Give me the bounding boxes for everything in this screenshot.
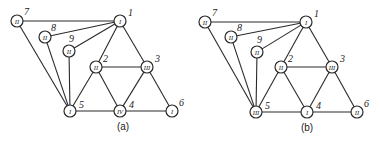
node-color-label: II [228, 34, 234, 41]
panel-a: I1II2III3IV4I5I6II7II8II9(a) [11, 6, 184, 132]
graph-coloring-diagram: I1II2III3IV4I5I6II7II8II9(a) I1II2III3I4… [0, 0, 381, 146]
node-8: II8 [225, 22, 242, 43]
node-color-label: II [202, 19, 208, 26]
panel-caption: (b) [301, 122, 313, 133]
node-number-label: 5 [79, 99, 84, 110]
edge-3-6 [150, 72, 169, 106]
node-color-label: II [14, 18, 20, 25]
edge-9-5 [256, 58, 257, 106]
node-1: I1 [300, 8, 319, 28]
node-number-label: 9 [257, 34, 262, 45]
node-color-label: III [328, 64, 336, 71]
node-number-label: 1 [314, 8, 319, 19]
edge-1-3 [123, 26, 144, 62]
node-4: I4 [301, 100, 321, 118]
node-number-label: 7 [212, 7, 218, 18]
node-9: II9 [63, 33, 75, 57]
node-3: III3 [141, 53, 160, 73]
node-number-label: 1 [128, 7, 133, 18]
node-number-label: 8 [237, 22, 242, 33]
panel-caption: (a) [117, 121, 129, 132]
node-1: I1 [114, 7, 133, 27]
node-7: II7 [199, 7, 218, 28]
node-number-label: 4 [129, 99, 134, 110]
node-6: II6 [351, 98, 369, 118]
node-2: II2 [275, 53, 293, 73]
edge-9-5 [69, 57, 70, 105]
node-8: II8 [39, 22, 56, 43]
edge-2-4 [284, 72, 304, 107]
edge-1-3 [309, 27, 329, 62]
edge-2-4 [99, 72, 117, 105]
node-number-label: 3 [339, 53, 345, 64]
edge-9-1 [74, 24, 115, 48]
panel-b: I1II2III3I4III5II6II7II8II9(b) [199, 7, 369, 133]
node-6: I6 [166, 97, 184, 117]
node-9: II9 [251, 34, 263, 58]
node-color-label: II [278, 64, 284, 71]
node-7: II7 [11, 6, 30, 27]
edge-1-2 [284, 27, 303, 62]
node-number-label: 2 [288, 53, 293, 64]
edge-9-1 [262, 25, 301, 49]
node-color-label: II [254, 49, 260, 56]
node-number-label: 3 [154, 53, 160, 64]
node-number-label: 6 [179, 97, 184, 108]
node-color-label: III [252, 109, 260, 116]
node-3: III3 [326, 53, 345, 73]
node-color-label: II [66, 48, 72, 55]
node-color-label: IV [116, 108, 124, 115]
edge-3-6 [335, 72, 354, 107]
node-color-label: II [42, 34, 48, 41]
node-number-label: 5 [265, 100, 270, 111]
node-number-label: 6 [364, 98, 369, 109]
node-number-label: 7 [24, 6, 30, 17]
node-color-label: II [93, 64, 99, 71]
edge-8-1 [51, 22, 114, 35]
node-color-label: III [143, 64, 151, 71]
node-number-label: 9 [69, 33, 74, 44]
node-number-label: 4 [316, 100, 321, 111]
node-color-label: II [354, 109, 360, 116]
node-number-label: 2 [103, 53, 108, 64]
node-4: IV4 [114, 99, 134, 117]
edge-8-1 [237, 23, 300, 36]
node-number-label: 8 [51, 22, 56, 33]
node-2: II2 [90, 53, 108, 73]
